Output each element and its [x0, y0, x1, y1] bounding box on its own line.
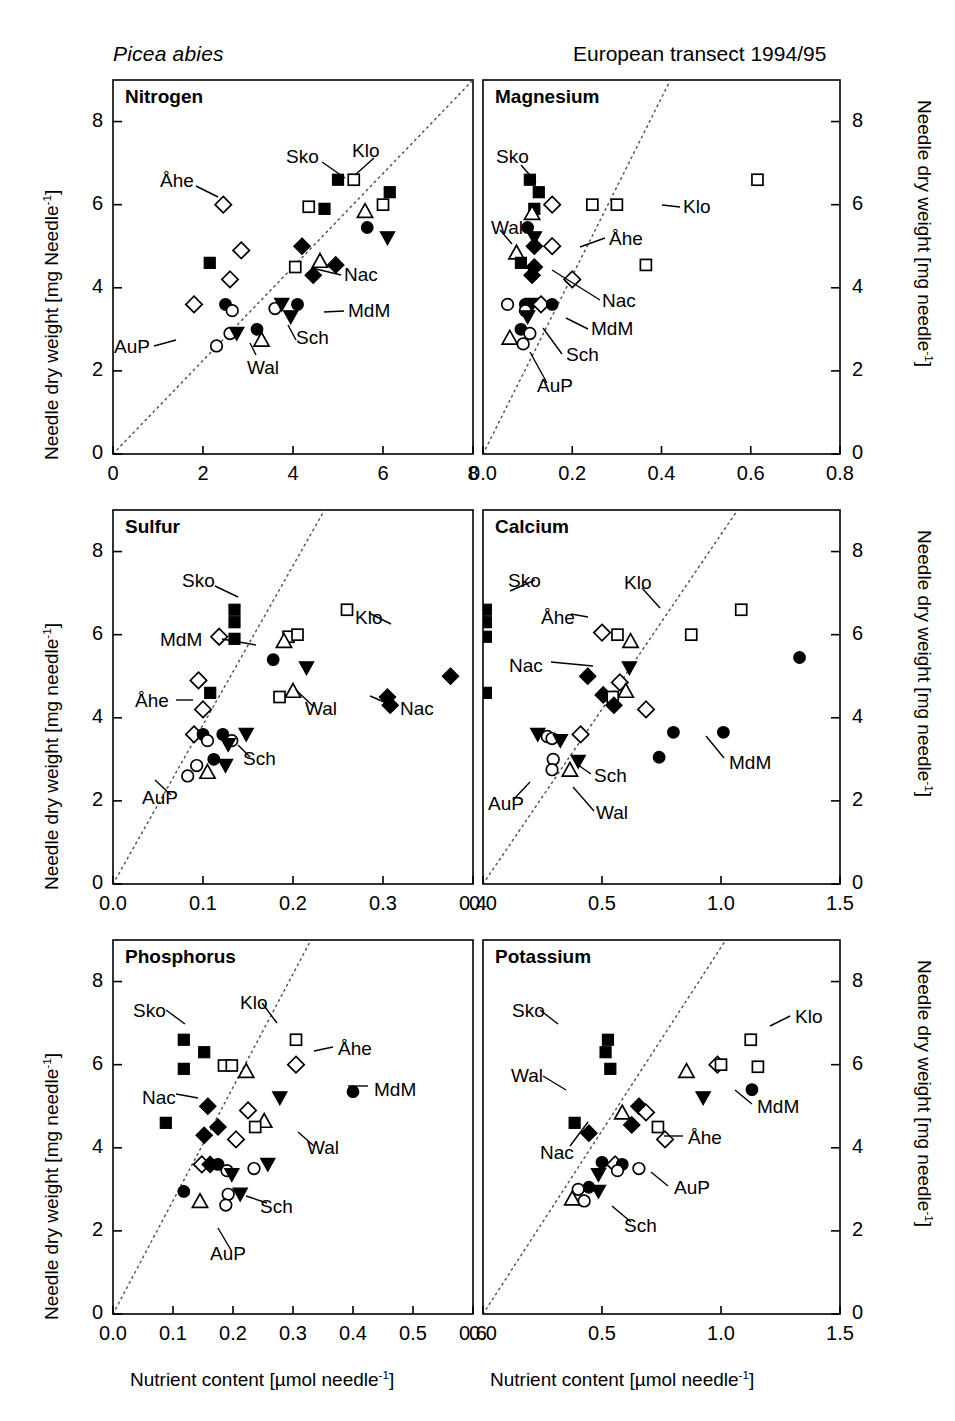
data-point-open-circle: [612, 1165, 624, 1177]
site-label-klo: Klo: [683, 196, 710, 218]
data-point-open-square: [274, 692, 285, 703]
site-label-wal: Wal: [307, 1137, 339, 1159]
site-label-wal: Wal: [491, 217, 523, 239]
site-label-mdm: MdM: [757, 1096, 799, 1118]
site-label-aup: AuP: [674, 1177, 710, 1199]
data-point-open-circle: [220, 1199, 232, 1211]
data-point-filled-square: [204, 257, 215, 268]
data-point-open-circle: [578, 1195, 590, 1207]
data-point-filled-circle: [361, 222, 373, 234]
data-point-filled-circle: [347, 1086, 359, 1098]
panel-frame-calcium: [483, 510, 840, 884]
y-tick-label: 4: [852, 275, 878, 298]
x-tick-label: 0.5: [580, 892, 624, 915]
data-point-filled-square: [178, 1034, 189, 1045]
data-point-filled-circle: [668, 727, 680, 739]
y-tick-label: 0: [77, 441, 103, 464]
site-label-sch: Sch: [594, 765, 627, 787]
panel-title-magnesium: Magnesium: [495, 86, 600, 108]
data-point-open-square: [290, 262, 301, 273]
data-point-open-square: [752, 1061, 763, 1072]
y-tick-label: 8: [77, 969, 103, 992]
site-label-aup: AuP: [210, 1243, 246, 1265]
site-label-åhe: Åhe: [688, 1127, 722, 1149]
site-label-mdm: MdM: [729, 752, 771, 774]
y-tick-label: 0: [852, 441, 878, 464]
y-tick-label: 0: [852, 871, 878, 894]
data-point-open-circle: [191, 760, 203, 772]
x-tick-label: 0.4: [331, 1322, 375, 1345]
x-tick-label: 1.0: [699, 892, 743, 915]
x-tick-label: 1.0: [699, 1322, 743, 1345]
site-label-åhe: Åhe: [135, 690, 169, 712]
site-label-mdm: MdM: [374, 1079, 416, 1101]
x-tick-label: 0.0: [461, 462, 505, 485]
y-tick-label: 2: [77, 1218, 103, 1241]
site-label-sko: Sko: [286, 146, 319, 168]
site-label-klo: Klo: [795, 1006, 822, 1028]
data-point-filled-circle: [794, 652, 806, 664]
data-point-filled-square: [569, 1117, 580, 1128]
site-label-aup: AuP: [488, 793, 524, 815]
data-point-open-circle: [633, 1163, 645, 1175]
panel-title-potassium: Potassium: [495, 946, 591, 968]
x-tick-label: 0.0: [461, 1322, 505, 1345]
data-point-open-circle: [502, 299, 514, 311]
site-label-sch: Sch: [566, 344, 599, 366]
site-label-sch: Sch: [260, 1196, 293, 1218]
x-tick-label: 0.8: [818, 462, 862, 485]
site-label-åhe: Åhe: [609, 228, 643, 250]
y-tick-label: 8: [77, 539, 103, 562]
panel-title-calcium: Calcium: [495, 516, 569, 538]
data-point-filled-square: [229, 604, 240, 615]
data-point-filled-square: [384, 187, 395, 198]
data-point-open-square: [611, 199, 622, 210]
data-point-filled-square: [229, 617, 240, 628]
x-tick-label: 0.0: [91, 1322, 135, 1345]
site-label-klo: Klo: [355, 607, 382, 629]
y-tick-label: 4: [77, 275, 103, 298]
site-label-sko: Sko: [512, 1000, 545, 1022]
data-point-open-square: [716, 1059, 727, 1070]
site-label-klo: Klo: [624, 572, 651, 594]
data-point-filled-circle: [292, 299, 304, 311]
site-label-sko: Sko: [133, 1000, 166, 1022]
y-tick-label: 8: [852, 539, 878, 562]
data-point-filled-square: [600, 1047, 611, 1058]
data-point-open-circle: [248, 1163, 260, 1175]
data-point-open-square: [752, 174, 763, 185]
data-point-filled-square: [533, 187, 544, 198]
site-label-mdm: MdM: [160, 629, 202, 651]
y-tick-label: 8: [852, 969, 878, 992]
site-label-sch: Sch: [296, 327, 329, 349]
x-tick-label: 0.2: [211, 1322, 255, 1345]
data-point-open-circle: [524, 328, 536, 340]
y-tick-label: 8: [77, 109, 103, 132]
site-label-åhe: Åhe: [541, 607, 575, 629]
site-label-sko: Sko: [182, 570, 215, 592]
site-label-sch: Sch: [624, 1215, 657, 1237]
site-label-wal: Wal: [305, 698, 337, 720]
data-point-open-square: [736, 604, 747, 615]
data-point-open-square: [686, 629, 697, 640]
site-label-klo: Klo: [352, 140, 379, 162]
data-point-open-circle: [182, 770, 194, 782]
data-point-filled-square: [515, 257, 526, 268]
site-label-wal: Wal: [247, 357, 279, 379]
x-tick-label: 0.0: [91, 892, 135, 915]
leader-line: [324, 311, 344, 312]
y-tick-label: 6: [852, 1052, 878, 1075]
data-point-open-square: [652, 1122, 663, 1133]
x-tick-label: 0: [91, 462, 135, 485]
x-tick-label: 0.1: [151, 1322, 195, 1345]
site-label-sch: Sch: [243, 748, 276, 770]
data-point-open-square: [250, 1122, 261, 1133]
data-point-filled-square: [480, 631, 491, 642]
site-label-åhe: Åhe: [160, 170, 194, 192]
site-label-klo: Klo: [240, 992, 267, 1014]
y-tick-label: 4: [852, 705, 878, 728]
site-label-wal: Wal: [596, 802, 628, 824]
y-tick-label: 8: [852, 109, 878, 132]
data-point-open-square: [291, 1034, 302, 1045]
x-tick-label: 0.5: [391, 1322, 435, 1345]
